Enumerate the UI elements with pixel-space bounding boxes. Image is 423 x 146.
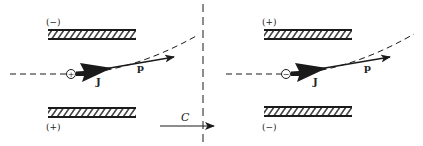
left-top-plate xyxy=(48,30,136,39)
left-top-plate-charge-label: (−) xyxy=(46,17,61,27)
right-momentum-label: p xyxy=(364,62,371,73)
charge-conjugation-mirror: C xyxy=(160,4,214,142)
left-panel: (−) (+) + J p xyxy=(10,17,198,132)
left-particle-positive: + xyxy=(67,70,76,80)
right-bottom-plate xyxy=(264,107,352,116)
left-momentum-label: p xyxy=(137,62,144,73)
left-bottom-plate-charge-label: (+) xyxy=(46,122,61,132)
right-bottom-plate-charge-label: (−) xyxy=(262,122,277,132)
right-top-plate xyxy=(264,30,352,39)
right-particle-negative: − xyxy=(282,70,291,80)
right-particle-sign: − xyxy=(283,70,290,79)
right-momentum-arrow-icon xyxy=(319,57,390,69)
left-spin-label: J xyxy=(95,76,101,87)
left-bottom-plate xyxy=(48,108,136,117)
left-spin-arrow-icon xyxy=(76,63,112,82)
left-particle-sign: + xyxy=(68,70,75,79)
charge-conjugation-diagram: (−) (+) + J p C (+) xyxy=(0,0,423,146)
c-operation-label: C xyxy=(181,111,190,124)
right-spin-label: J xyxy=(312,76,318,87)
right-top-plate-charge-label: (+) xyxy=(262,17,277,27)
right-panel: (+) (−) − J p xyxy=(226,17,414,132)
right-spin-arrow-icon xyxy=(291,63,327,82)
